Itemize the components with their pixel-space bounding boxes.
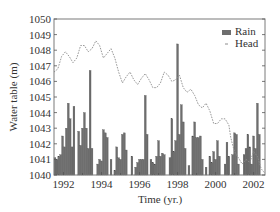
rain-bar: [198, 138, 200, 175]
rain-bar: [224, 164, 226, 175]
rain-bar: [87, 148, 89, 175]
rain-bar: [171, 119, 173, 175]
rain-bar: [67, 103, 69, 175]
legend: Rain Head: [222, 25, 259, 49]
rain-bar: [194, 122, 196, 175]
rain-bar: [103, 130, 105, 175]
rain-bar: [184, 148, 186, 175]
rain-bar: [56, 159, 58, 175]
x-tick-label: 1998: [167, 178, 190, 190]
rain-bar: [154, 164, 156, 175]
rain-bar: [163, 155, 165, 175]
rain-bar: [192, 136, 194, 175]
x-tick-label: 2002: [243, 178, 265, 190]
rain-bar: [137, 163, 139, 175]
rain-bar: [179, 134, 181, 175]
rain-bar: [62, 136, 64, 175]
rain-bar: [201, 159, 203, 175]
rain-bar: [196, 138, 198, 175]
rain-bar: [91, 148, 93, 175]
rain-bar: [232, 155, 234, 175]
rain-bar: [205, 167, 207, 175]
x-tick-label: 1992: [53, 178, 75, 190]
y-axis-label: Water table (m): [7, 62, 20, 131]
water-table-chart: 1040104110421043104410451046104710481049…: [0, 0, 280, 212]
rain-bar: [142, 159, 144, 175]
rain-bar: [245, 148, 247, 175]
y-tick-label: 1046: [29, 75, 52, 87]
legend-rain-swatch: [222, 30, 231, 35]
y-tick-label: 1048: [29, 44, 52, 56]
y-tick-label: 1041: [29, 153, 51, 165]
rain-bar: [209, 156, 211, 175]
rain-bar: [141, 159, 143, 175]
rain-bar: [226, 142, 228, 175]
rain-bar: [175, 141, 177, 175]
rain-bar: [255, 148, 257, 175]
rain-bar: [73, 106, 75, 175]
rain-bar: [60, 155, 62, 175]
rain-bar: [211, 163, 213, 175]
rain-bar: [84, 113, 86, 175]
legend-rain-label: Rain: [235, 25, 256, 37]
y-tick-label: 1044: [29, 107, 52, 119]
rain-bar: [253, 136, 255, 175]
x-tick-label: 1994: [91, 178, 114, 190]
rain-bar: [150, 159, 152, 175]
rain-bar: [169, 158, 171, 175]
rain-bar: [116, 147, 118, 175]
rain-bar: [228, 156, 230, 175]
rain-bar: [110, 159, 112, 175]
rain-bar: [120, 159, 122, 175]
x-tick-label: 1996: [129, 178, 152, 190]
rain-bars: [54, 44, 260, 175]
rain-bar: [85, 128, 87, 175]
y-tick-label: 1042: [29, 138, 51, 150]
rain-bar: [114, 170, 116, 175]
rain-bar: [173, 152, 175, 175]
y-tick-label: 1049: [29, 29, 52, 41]
legend-head-label: Head: [235, 37, 259, 49]
rain-bar: [123, 133, 125, 175]
y-tick-label: 1043: [29, 122, 52, 134]
rain-bar: [58, 156, 60, 175]
rain-bar: [161, 153, 163, 175]
rain-bar: [89, 70, 91, 175]
rain-bar: [64, 147, 66, 175]
rain-bar: [188, 166, 190, 175]
rain-bar: [144, 95, 146, 175]
rain-bar: [152, 163, 154, 175]
rain-bar: [237, 164, 239, 175]
rain-bar: [217, 141, 219, 175]
rain-bar: [218, 156, 220, 175]
rain-bar: [78, 131, 80, 175]
rain-bar: [234, 133, 236, 175]
rain-bar: [99, 159, 101, 175]
rain-bar: [251, 164, 253, 175]
rain-bar: [69, 119, 71, 175]
rain-bar: [82, 128, 84, 175]
rain-bar: [199, 136, 201, 175]
rain-bar: [158, 141, 160, 175]
rain-bar: [135, 167, 137, 175]
rain-bar: [71, 147, 73, 175]
rain-bar: [131, 156, 133, 175]
x-axis-label: Time (yr.): [138, 193, 183, 206]
rain-bar: [182, 122, 184, 175]
y-tick-label: 1047: [29, 60, 52, 72]
rain-bar: [247, 134, 249, 175]
rain-bar: [97, 164, 99, 175]
rain-bar: [177, 44, 179, 175]
rain-bar: [156, 156, 158, 175]
rain-bar: [106, 138, 108, 175]
rain-bar: [257, 103, 259, 175]
rain-bar: [146, 134, 148, 175]
rain-bar: [180, 105, 182, 175]
rain-bar: [243, 155, 245, 175]
rain-bar: [118, 158, 120, 175]
rain-bar: [125, 150, 127, 175]
rain-bar: [80, 145, 82, 175]
y-tick-label: 1050: [29, 13, 52, 25]
rain-bar: [160, 156, 162, 175]
rain-bar: [122, 134, 124, 175]
